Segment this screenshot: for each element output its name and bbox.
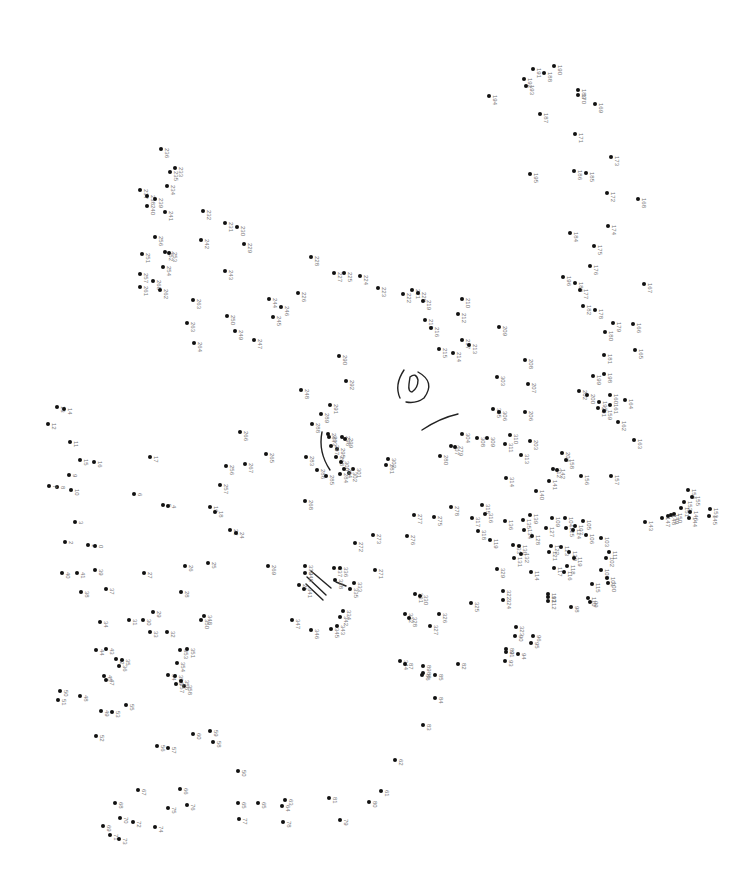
puzzle-dot xyxy=(237,817,241,821)
dot-number-label: 84 xyxy=(438,697,444,704)
puzzle-dot xyxy=(79,590,83,594)
puzzle-dot xyxy=(437,612,441,616)
dot-number-label: 292 xyxy=(349,380,355,390)
puzzle-dot xyxy=(148,455,152,459)
puzzle-dot xyxy=(584,533,588,537)
dot-number-label: 6 xyxy=(137,493,143,496)
puzzle-dot xyxy=(606,224,610,228)
puzzle-dot xyxy=(517,544,521,548)
puzzle-dot xyxy=(94,734,98,738)
dot-number-label: 75 xyxy=(171,807,177,814)
puzzle-dot xyxy=(528,439,532,443)
puzzle-dot xyxy=(538,112,542,116)
puzzle-dot xyxy=(593,308,597,312)
puzzle-dot xyxy=(523,358,527,362)
puzzle-dot xyxy=(68,440,72,444)
puzzle-dot xyxy=(560,451,564,455)
dot-number-label: 219 xyxy=(426,300,432,310)
puzzle-dot xyxy=(469,601,473,605)
puzzle-dot xyxy=(631,322,635,326)
puzzle-dot xyxy=(202,614,206,618)
puzzle-dot xyxy=(213,510,217,514)
dot-number-label: 327 xyxy=(433,625,439,635)
puzzle-dot xyxy=(485,436,489,440)
dot-number-label: 145 xyxy=(712,515,718,525)
dot-number-label: 182 xyxy=(586,305,592,315)
puzzle-dot xyxy=(596,406,600,410)
puzzle-dot xyxy=(585,393,589,397)
puzzle-dot xyxy=(581,519,585,523)
puzzle-dot xyxy=(576,93,580,97)
dot-number-label: 222 xyxy=(406,293,412,303)
dot-number-label: 288 xyxy=(315,423,321,433)
dot-number-label: 14 xyxy=(67,408,73,415)
dot-number-label: 31 xyxy=(132,619,138,626)
dot-number-label: 225 xyxy=(347,272,353,282)
puzzle-dot xyxy=(352,581,356,585)
puzzle-dot xyxy=(332,271,336,275)
eye-pupil xyxy=(409,375,418,392)
puzzle-dot xyxy=(141,618,145,622)
puzzle-dot xyxy=(93,544,97,548)
puzzle-dot xyxy=(138,188,142,192)
puzzle-dot xyxy=(555,468,559,472)
puzzle-dot xyxy=(371,533,375,537)
dot-number-label: 283 xyxy=(309,456,315,466)
puzzle-dot xyxy=(98,620,102,624)
puzzle-dot xyxy=(223,221,227,225)
puzzle-dot xyxy=(328,403,332,407)
puzzle-dot xyxy=(564,458,568,462)
puzzle-dot xyxy=(421,664,425,668)
puzzle-dot xyxy=(565,564,569,568)
dot-number-label: 41 xyxy=(80,572,86,579)
puzzle-dot xyxy=(504,476,508,480)
puzzle-dot xyxy=(63,540,67,544)
puzzle-dot xyxy=(519,453,523,457)
puzzle-dot xyxy=(552,566,556,570)
dot-number-label: 141 xyxy=(552,480,558,490)
puzzle-dot xyxy=(166,673,170,677)
puzzle-dot xyxy=(529,641,533,645)
dot-number-label: 101 xyxy=(610,577,616,587)
puzzle-dot xyxy=(373,568,377,572)
puzzle-dot xyxy=(418,594,422,598)
puzzle-dot xyxy=(503,659,507,663)
puzzle-dot xyxy=(163,210,167,214)
dot-number-label: 143 xyxy=(648,521,654,531)
puzzle-dot xyxy=(603,330,607,334)
dot-number-label: 64 xyxy=(285,805,291,812)
puzzle-dot xyxy=(604,556,608,560)
puzzle-dot xyxy=(110,710,114,714)
dot-number-label: 269 xyxy=(271,565,277,575)
puzzle-dot xyxy=(206,561,210,565)
puzzle-dot xyxy=(58,689,62,693)
dot-number-label: 51 xyxy=(61,699,67,706)
puzzle-dot xyxy=(153,235,157,239)
dot-number-label: 257 xyxy=(143,273,149,283)
puzzle-dot xyxy=(201,209,205,213)
puzzle-dot xyxy=(67,473,71,477)
dot-number-label: 66 xyxy=(183,788,189,795)
dot-number-label: 186 xyxy=(577,170,583,180)
dot-number-label: 172 xyxy=(610,192,616,202)
puzzle-dot xyxy=(145,194,149,198)
dot-number-label: 10 xyxy=(74,489,80,496)
dot-number-label: 24 xyxy=(239,532,245,539)
dot-number-label: 338 xyxy=(338,579,344,589)
puzzle-dot xyxy=(342,467,346,471)
puzzle-dot xyxy=(572,169,576,173)
puzzle-dot xyxy=(679,506,683,510)
puzzle-dot xyxy=(86,543,90,547)
dot-number-label: 318 xyxy=(481,530,487,540)
dot-number-label: 161 xyxy=(613,404,619,414)
dot-number-label: 346 xyxy=(314,629,320,639)
dot-number-label: 159 xyxy=(607,410,613,420)
dot-number-label: 263 xyxy=(190,322,196,332)
puzzle-dot xyxy=(142,571,146,575)
dot-number-label: 336 xyxy=(343,567,349,577)
puzzle-dot xyxy=(686,488,690,492)
puzzle-dot xyxy=(114,657,118,661)
puzzle-dot xyxy=(191,298,195,302)
puzzle-dot xyxy=(266,564,270,568)
puzzle-dot xyxy=(504,650,508,654)
